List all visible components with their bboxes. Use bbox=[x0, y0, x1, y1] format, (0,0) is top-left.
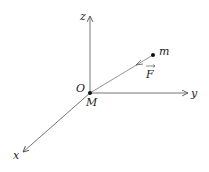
force-arrowhead-icon bbox=[136, 60, 143, 65]
origin-point bbox=[88, 91, 92, 95]
mass-label: m bbox=[159, 45, 169, 58]
force-label: F bbox=[145, 68, 154, 81]
x-axis bbox=[23, 93, 90, 152]
y-axis-label: y bbox=[190, 87, 198, 100]
mass-point bbox=[151, 53, 155, 57]
x-axis-label: x bbox=[13, 149, 20, 162]
z-axis-label: z bbox=[79, 10, 86, 23]
origin-label: O bbox=[76, 82, 85, 95]
force-line bbox=[90, 55, 153, 93]
point-m-label: M bbox=[85, 96, 98, 109]
diagram-canvas: z y x m F O M bbox=[0, 0, 209, 172]
